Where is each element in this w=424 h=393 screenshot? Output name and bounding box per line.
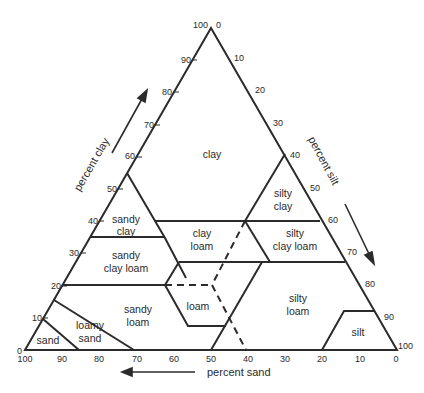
boundary-silt-loam (211, 262, 262, 350)
sand-tick-50: 50 (206, 354, 216, 364)
region-silty-clay-loam-l2: clay loam (273, 240, 318, 252)
sand-tick-10: 10 (355, 354, 365, 364)
clay-tick-20: 20 (51, 281, 61, 291)
boundary-silt (322, 311, 375, 350)
clay-tick-100: 100 (193, 20, 208, 30)
region-clay-loam-l1: clay (193, 227, 212, 239)
region-loamy-sand-l2: sand (79, 332, 102, 344)
region-sandy-clay-l1: sandy (112, 213, 141, 225)
sand-tick-30: 30 (280, 354, 290, 364)
sand-tick-60: 60 (169, 354, 179, 364)
clay-axis-title: percent clay (71, 135, 111, 193)
region-silty-loam-l2: loam (287, 305, 310, 317)
boundary-silty-clay-loam (245, 221, 270, 262)
sand-tick-70: 70 (132, 354, 142, 364)
region-silty-loam-l1: silty (289, 292, 308, 304)
sand-tick-80: 80 (94, 354, 104, 364)
sand-axis-title: percent sand (207, 366, 271, 378)
region-silty-clay-l1: silty (274, 187, 293, 199)
silt-tick-80: 80 (365, 279, 375, 289)
region-sandy-clay-loam-l1: sandy (112, 249, 141, 261)
silt-tick-10: 10 (234, 53, 244, 63)
soil-texture-triangle: 0 10 20 30 40 50 60 70 80 90 100 0 10 20… (0, 0, 424, 393)
silt-tick-40: 40 (290, 150, 300, 160)
sand-tick-40: 40 (243, 354, 253, 364)
silt-tick-30: 30 (273, 118, 283, 128)
clay-tick-70: 70 (144, 120, 154, 130)
silt-tick-70: 70 (347, 247, 357, 257)
boundary-loam-left (165, 262, 226, 326)
sand-tick-20: 20 (317, 354, 327, 364)
clay-arrow (112, 97, 143, 153)
silt-tick-100: 100 (398, 341, 413, 351)
silt-tick-20: 20 (255, 85, 265, 95)
region-loamy-sand-l1: loamy (76, 319, 105, 331)
clay-tick-90: 90 (181, 55, 191, 65)
region-silty-clay-l2: clay (274, 200, 293, 212)
region-sandy-loam-l1: sandy (124, 303, 153, 315)
sand-tick-100: 100 (17, 354, 32, 364)
clay-tick-80: 80 (162, 87, 172, 97)
dashed-upper (212, 221, 245, 285)
region-sandy-clay-loam-l2: clay loam (104, 262, 149, 274)
sand-tick-0: 0 (393, 354, 398, 364)
clay-tick-50: 50 (107, 184, 117, 194)
region-silty-clay-loam-l1: silty (286, 227, 305, 239)
clay-tick-10: 10 (32, 313, 42, 323)
clay-tick-60: 60 (125, 151, 135, 161)
silt-tick-0: 0 (216, 20, 221, 30)
silt-tick-90: 90 (384, 312, 394, 322)
region-clay: clay (203, 148, 222, 160)
sand-tick-90: 90 (57, 354, 67, 364)
region-sand: sand (37, 334, 60, 346)
clay-tick-30: 30 (69, 248, 79, 258)
region-sandy-clay-l2: clay (117, 225, 136, 237)
region-clay-loam-l2: loam (191, 240, 214, 252)
clay-tick-40: 40 (88, 216, 98, 226)
region-silt: silt (352, 326, 365, 338)
silt-tick-50: 50 (310, 183, 320, 193)
region-sandy-loam-l2: loam (127, 316, 150, 328)
silt-tick-60: 60 (328, 215, 338, 225)
silt-axis-title: percent silt (306, 134, 342, 187)
region-loam: loam (187, 300, 210, 312)
